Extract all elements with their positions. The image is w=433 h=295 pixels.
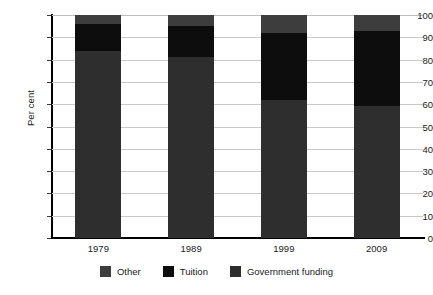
x-tick-label: 2009 (337, 243, 417, 254)
bar-segment[interactable] (75, 15, 121, 24)
legend-label: Other (117, 266, 141, 277)
y-tick-mark (47, 193, 51, 194)
bar-segment[interactable] (261, 100, 307, 238)
x-tick-label: 1979 (58, 243, 138, 254)
plot-area (52, 15, 423, 238)
y-tick-label: 30 (389, 166, 433, 177)
y-tick-label: 70 (389, 76, 433, 87)
bar-segment[interactable] (261, 33, 307, 100)
y-tick-mark (47, 171, 51, 172)
y-tick-label: 100 (389, 10, 433, 21)
y-tick-label: 20 (389, 188, 433, 199)
bar-group[interactable] (75, 15, 121, 238)
y-tick-label: 50 (389, 121, 433, 132)
y-tick-mark (47, 60, 51, 61)
x-tick-label: 1999 (244, 243, 324, 254)
legend-label: Tuition (180, 266, 208, 277)
x-tick-label: 1989 (151, 243, 231, 254)
bar-segment[interactable] (261, 15, 307, 33)
legend-item[interactable]: Tuition (163, 266, 208, 277)
y-tick-mark (47, 149, 51, 150)
y-tick-label: 40 (389, 143, 433, 154)
y-tick-mark (47, 216, 51, 217)
legend-item[interactable]: Other (100, 266, 141, 277)
y-tick-label: 80 (389, 54, 433, 65)
legend-swatch (230, 266, 241, 277)
chart-legend: OtherTuitionGovernment funding (0, 266, 433, 277)
y-tick-mark (47, 238, 51, 239)
y-tick-mark (47, 82, 51, 83)
y-axis-title: Per cent (25, 73, 36, 143)
legend-swatch (100, 266, 111, 277)
bar-segment[interactable] (75, 51, 121, 238)
y-tick-mark (47, 37, 51, 38)
bar-segment[interactable] (75, 24, 121, 51)
legend-swatch (163, 266, 174, 277)
legend-label: Government funding (247, 266, 333, 277)
stacked-bar-chart: Per cent 0102030405060708090100 19791989… (0, 0, 433, 295)
y-tick-label: 10 (389, 210, 433, 221)
y-tick-mark (47, 104, 51, 105)
bar-group[interactable] (261, 15, 307, 238)
legend-item[interactable]: Government funding (230, 266, 333, 277)
y-tick-mark (47, 127, 51, 128)
bar-segment[interactable] (168, 57, 214, 238)
y-tick-mark (47, 15, 51, 16)
bar-segment[interactable] (168, 26, 214, 57)
bar-segment[interactable] (168, 15, 214, 26)
y-tick-label: 60 (389, 99, 433, 110)
y-tick-label: 90 (389, 32, 433, 43)
bar-group[interactable] (168, 15, 214, 238)
y-tick-label: 0 (389, 233, 433, 244)
